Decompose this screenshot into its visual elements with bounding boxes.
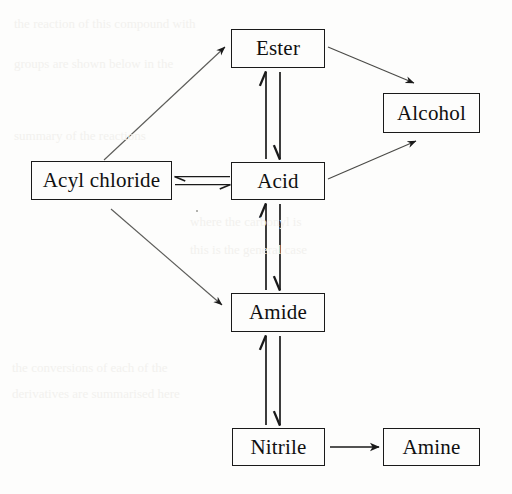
edge-ester-acid-reversible: [266, 72, 280, 159]
node-label-ester: Ester: [256, 38, 300, 59]
node-label-amide: Amide: [249, 302, 307, 323]
page-bleedthrough-artifact: summary of the reactions: [14, 128, 146, 144]
print-speck: [196, 210, 198, 212]
node-label-alcohol: Alcohol: [397, 103, 466, 124]
node-nitrile[interactable]: Nitrile: [232, 428, 325, 466]
node-acid[interactable]: Acid: [231, 162, 325, 200]
edge-amide-nitrile-reversible: [266, 336, 280, 425]
edge-ester-to-alcohol: [328, 47, 414, 83]
edge-acyl-chloride-acid-reversible: [175, 177, 230, 185]
node-amine[interactable]: Amine: [383, 428, 480, 466]
node-ester[interactable]: Ester: [231, 29, 325, 68]
edge-acid-to-alcohol: [328, 141, 416, 179]
page-bleedthrough-artifact: where the carbonyl is: [190, 214, 302, 230]
node-acyl-chloride[interactable]: Acyl chloride: [31, 161, 172, 200]
page-bleedthrough-artifact: this is the general case: [190, 242, 307, 258]
page-bleedthrough-artifact: groups are shown below in the: [14, 56, 173, 72]
page-bleedthrough-artifact: derivatives are summarised here: [12, 386, 180, 402]
page-bleedthrough-artifact: the conversions of each of the: [12, 360, 168, 376]
page-bleedthrough-artifact: the reaction of this compound with: [14, 16, 196, 32]
node-label-acid: Acid: [257, 171, 299, 192]
node-label-acyl-chloride: Acyl chloride: [43, 170, 160, 191]
node-label-amine: Amine: [402, 437, 460, 458]
node-alcohol[interactable]: Alcohol: [383, 93, 480, 133]
reaction-scheme-diagram: the reaction of this compound with group…: [0, 0, 512, 494]
node-amide[interactable]: Amide: [231, 293, 325, 332]
node-label-nitrile: Nitrile: [250, 437, 306, 458]
